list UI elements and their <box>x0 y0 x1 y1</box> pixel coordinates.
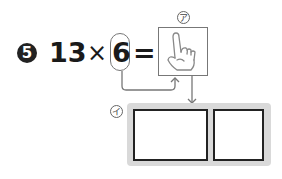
answer-box-1[interactable] <box>133 109 208 161</box>
label-i: イ <box>110 105 123 118</box>
answer-box-2[interactable] <box>213 109 264 161</box>
